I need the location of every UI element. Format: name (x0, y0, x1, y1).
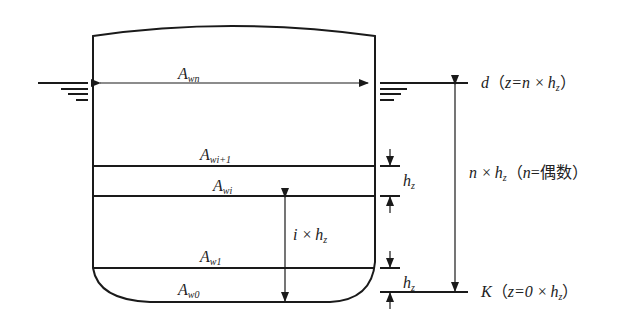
label-awi: Awi (212, 177, 232, 196)
waterline-symbol-left (38, 83, 88, 100)
label-awn: Awn (177, 65, 199, 84)
label-hz-top: hz (403, 172, 415, 191)
label-aw1: Aw1 (199, 248, 221, 267)
label-aw0: Aw0 (177, 281, 199, 300)
hz-ticks-top (380, 166, 400, 196)
label-n-hz: n ×hz（n=偶数） (469, 164, 588, 183)
waterplane-diagram: Awn Awi+1 Awi Aw1 Aw0 hz hz i ×hz n ×hz（… (0, 0, 622, 330)
label-keel-k: K（z=0 ×hz） (480, 283, 578, 302)
hull-outline (93, 26, 375, 302)
label-draft-d: d（z=n ×hz） (481, 74, 576, 93)
label-i-hz: i ×hz (293, 226, 327, 245)
label-awi-plus-1: Awi+1 (199, 146, 231, 165)
label-hz-bottom: hz (403, 274, 415, 293)
